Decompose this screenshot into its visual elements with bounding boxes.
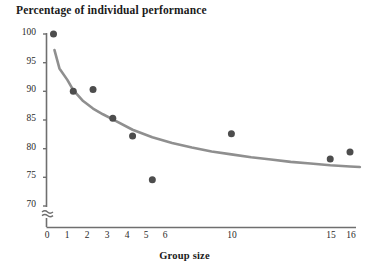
y-tick-label-90: 90	[10, 84, 36, 94]
data-point	[327, 155, 334, 162]
y-tick-label-100: 100	[10, 27, 36, 37]
data-point	[129, 133, 136, 140]
data-point	[70, 88, 77, 95]
data-points	[50, 31, 354, 184]
data-point	[109, 115, 116, 122]
data-point	[347, 149, 354, 156]
x-tick-label-4: 4	[117, 230, 137, 240]
x-tick-label-6: 6	[155, 230, 175, 240]
data-point	[90, 86, 97, 93]
x-tick-label-16: 16	[341, 230, 361, 240]
x-tick-label-2: 2	[77, 230, 97, 240]
y-tick-label-80: 80	[10, 142, 36, 152]
chart-figure: Percentage of individual performance 100…	[0, 0, 369, 270]
y-axis-break-icon-2	[42, 214, 53, 216]
data-point	[228, 130, 235, 137]
fitted-curve	[54, 50, 359, 167]
y-tick-label-70: 70	[10, 199, 36, 209]
data-point	[50, 31, 57, 38]
y-tick-label-85: 85	[10, 113, 36, 123]
x-tick-label-3: 3	[97, 230, 117, 240]
y-tick-label-75: 75	[10, 170, 36, 180]
x-tick-label-0: 0	[37, 230, 57, 240]
x-tick-label-10: 10	[222, 230, 242, 240]
x-axis-title: Group size	[0, 250, 369, 261]
x-tick-label-5: 5	[136, 230, 156, 240]
y-axis-break-icon	[42, 211, 53, 213]
x-tick-label-15: 15	[321, 230, 341, 240]
y-tick-label-95: 95	[10, 56, 36, 66]
x-tick-label-1: 1	[57, 230, 77, 240]
data-point	[149, 176, 156, 183]
